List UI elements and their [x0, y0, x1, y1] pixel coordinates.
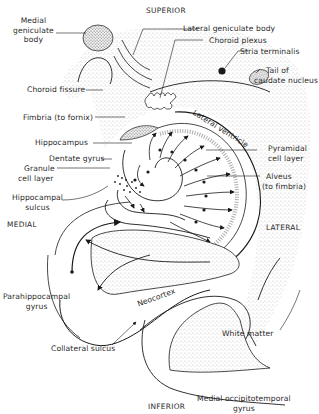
label-dentate-gyrus: Dentate gyrus — [49, 154, 105, 164]
pyramidal-cells — [133, 148, 207, 223]
label-line: caudate nucleus — [254, 76, 318, 86]
label-alveus: Alveus (to fimbria) — [262, 172, 306, 191]
orientation-inferior: INFERIOR — [148, 402, 185, 411]
label-lateral-geniculate-body: Lateral geniculate body — [183, 24, 275, 34]
label-line: cell layer — [268, 154, 307, 164]
label-parahippocampal-gyrus: Parahippocampal gyrus — [3, 292, 70, 311]
label-line: (to fimbria) — [262, 182, 306, 192]
label-white-matter: White matter — [222, 329, 274, 339]
label-line: Hippocampal — [12, 193, 63, 203]
label-line: gyrus — [197, 404, 291, 414]
label-line: cell layer — [18, 174, 55, 184]
label-choroid-plexus: Choroid plexus — [209, 36, 267, 46]
label-line: Tail of — [254, 66, 318, 76]
label-hippocampus: Hippocampus — [35, 138, 88, 148]
label-line: sulcus — [12, 203, 63, 213]
label-medial-occipitotemporal-gyrus: Medial occipitotemporal gyrus — [197, 394, 291, 413]
label-pyramidal-cell-layer: Pyramidal cell layer — [268, 144, 307, 163]
label-line: gyrus — [3, 302, 70, 312]
label-line: body — [13, 35, 54, 45]
orientation-lateral: LATERAL — [266, 223, 300, 232]
label-line: Medial — [13, 16, 54, 26]
label-tail-of-caudate-nucleus: Tail of caudate nucleus — [254, 66, 318, 85]
stria-terminalis-dot — [218, 67, 225, 74]
label-line: Parahippocampal — [3, 292, 70, 302]
label-stria-terminalis: Stria terminalis — [240, 47, 299, 57]
label-medial-geniculate-body: Medial geniculate body — [13, 16, 54, 45]
label-granule-cell-layer: Granule cell layer — [18, 164, 55, 183]
pyramidal-arrows — [137, 132, 234, 242]
label-line: Medial occipitotemporal — [197, 394, 291, 404]
orientation-superior: SUPERIOR — [146, 6, 186, 15]
label-line: Pyramidal — [268, 144, 307, 154]
label-line: Granule — [18, 164, 55, 174]
label-line: geniculate — [13, 26, 54, 36]
white-matter-upper — [91, 230, 239, 294]
medial-geniculate-body-shape — [83, 25, 113, 51]
label-collateral-sulcus: Collateral sulcus — [51, 344, 115, 354]
orientation-medial: MEDIAL — [7, 220, 37, 229]
label-fimbria: Fimbria (to fornix) — [23, 113, 93, 123]
label-hippocampal-sulcus: Hippocampal sulcus — [12, 193, 63, 212]
label-line: Alveus — [262, 172, 306, 182]
label-choroid-fissure: Choroid fissure — [27, 85, 85, 95]
